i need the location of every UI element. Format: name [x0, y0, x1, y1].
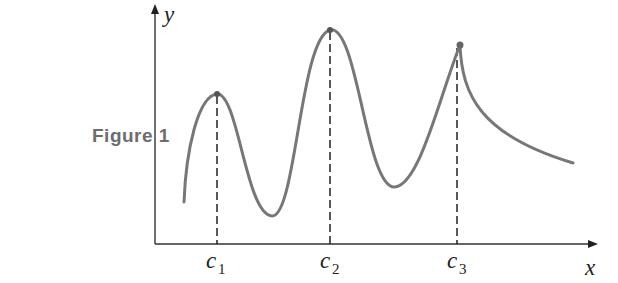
peak-dot-c3: [457, 42, 464, 49]
svg-text:2: 2: [332, 261, 340, 277]
y-axis-label: y: [162, 2, 175, 27]
function-graph: y x c 1 c 2 c 3: [0, 0, 618, 283]
svg-text:c: c: [320, 248, 330, 273]
axes: [151, 4, 598, 248]
c1-label: c 1: [206, 248, 226, 277]
c3-label: c 3: [447, 248, 467, 277]
critical-point-guides: [217, 32, 457, 244]
svg-text:1: 1: [218, 261, 226, 277]
svg-text:c: c: [447, 248, 457, 273]
svg-text:3: 3: [459, 261, 467, 277]
function-curve: [184, 30, 573, 216]
x-axis-label: x: [584, 255, 596, 280]
svg-text:c: c: [206, 248, 216, 273]
c2-label: c 2: [320, 248, 340, 277]
x-axis-arrow-icon: [588, 240, 598, 248]
peak-dot-c2: [327, 27, 333, 33]
y-axis-arrow-icon: [151, 4, 159, 14]
peak-dot-c1: [214, 91, 220, 97]
